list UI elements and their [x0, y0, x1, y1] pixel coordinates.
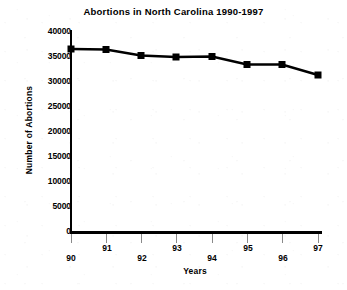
x-axis-title: Years — [70, 266, 320, 276]
data-point-93 — [173, 54, 180, 61]
data-point-97 — [315, 72, 322, 79]
plot-area: 40000 35000 30000 25000 20000 15000 1000… — [0, 0, 347, 290]
data-point-94 — [209, 53, 216, 60]
data-point-96 — [279, 61, 286, 68]
data-point-95 — [244, 61, 251, 68]
chart-screenshot: Abortions in North Carolina 1990-1997 Nu… — [0, 0, 347, 290]
series-markers — [68, 46, 322, 79]
data-point-90 — [68, 46, 75, 53]
data-series-layer — [0, 0, 347, 290]
data-point-91 — [103, 46, 110, 53]
data-point-92 — [138, 52, 145, 59]
